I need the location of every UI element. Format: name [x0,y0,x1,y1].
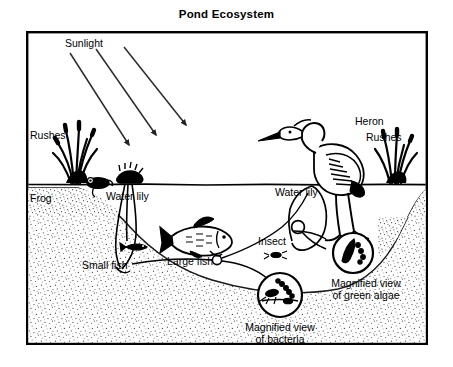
label-magnified-bacteria-line2: of bacteria [232,333,328,345]
label-magnified-algae-line2: of green algae [318,289,414,301]
diagram-frame: Sunlight Rushes Rushes Heron Frog Water … [26,31,428,345]
magnified-bacteria-circle [258,273,302,317]
label-water-lily-left: Water lily [106,190,149,202]
label-magnified-algae-line1: Magnified view [318,277,414,289]
label-large-fish: Large fish [167,255,213,267]
label-water-lily-right: Water lily [275,186,318,198]
label-rushes-left: Rushes [30,129,66,141]
page-title: Pond Ecosystem [0,7,453,21]
label-small-fish: Small fish [82,259,128,271]
label-heron: Heron [355,115,384,127]
label-magnified-bacteria-line1: Magnified view [232,321,328,333]
label-insect: Insect [258,235,286,247]
label-sunlight: Sunlight [65,37,103,49]
food-web-node [212,255,221,264]
magnified-algae-circle [333,233,373,273]
pond-ecosystem-figure: Pond Ecosystem [0,0,453,367]
label-frog: Frog [30,192,52,204]
label-rushes-right: Rushes [366,131,402,143]
